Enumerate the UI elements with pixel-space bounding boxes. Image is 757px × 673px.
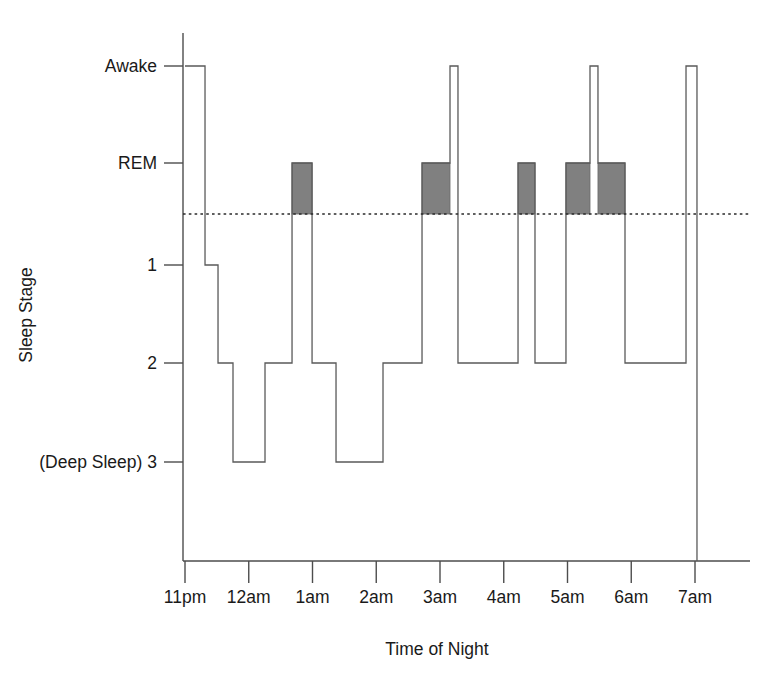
- rem-episode-block: [292, 163, 312, 214]
- rem-episode-block: [598, 163, 625, 214]
- y-axis-tick-label: 1: [147, 255, 157, 275]
- y-axis-tick-label: REM: [118, 153, 157, 173]
- y-axis-tick-label: (Deep Sleep) 3: [39, 452, 157, 472]
- x-axis-tick-label: 12am: [227, 587, 271, 607]
- x-axis-tick-label: 7am: [678, 587, 712, 607]
- sleep-stage-hypnogram: AwakeREM12(Deep Sleep) 3 11pm12am1am2am3…: [0, 0, 757, 673]
- y-axis-tick-label: Awake: [105, 56, 157, 76]
- x-axis-ticks: [185, 561, 695, 583]
- hypnogram-trace: [185, 66, 697, 561]
- x-axis-tick-label: 2am: [359, 587, 393, 607]
- rem-episode-block: [518, 163, 535, 214]
- x-axis-group: 11pm12am1am2am3am4am5am6am7am: [164, 561, 750, 607]
- x-axis-tick-label: 5am: [550, 587, 584, 607]
- y-axis-tick-label: 2: [147, 353, 157, 373]
- y-axis-group: AwakeREM12(Deep Sleep) 3: [39, 33, 183, 561]
- y-axis-tick-labels: AwakeREM12(Deep Sleep) 3: [39, 56, 157, 472]
- x-axis-tick-label: 6am: [614, 587, 648, 607]
- hypnogram-svg: AwakeREM12(Deep Sleep) 3 11pm12am1am2am3…: [0, 0, 757, 673]
- x-axis-tick-label: 11pm: [164, 587, 206, 607]
- rem-episode-block: [566, 163, 590, 214]
- x-axis-tick-labels: 11pm12am1am2am3am4am5am6am7am: [164, 587, 712, 607]
- y-axis-ticks: [164, 66, 183, 462]
- x-axis-tick-label: 1am: [295, 587, 329, 607]
- y-axis-title: Sleep Stage: [16, 267, 36, 362]
- rem-episode-block: [422, 163, 450, 214]
- x-axis-tick-label: 3am: [423, 587, 457, 607]
- x-axis-title: Time of Night: [385, 639, 489, 659]
- x-axis-tick-label: 4am: [487, 587, 521, 607]
